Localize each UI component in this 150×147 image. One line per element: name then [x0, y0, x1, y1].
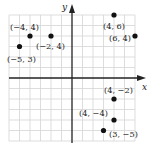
y-axis-label: y [61, 2, 68, 12]
point-4-6 [111, 12, 116, 17]
label-4-neg4: (4, −4) [79, 108, 108, 118]
label-4-neg2: (4, −2) [104, 85, 133, 95]
x-axis-label: x [142, 82, 147, 92]
point-neg2-4 [48, 33, 53, 38]
label-4-6: (4, 6) [103, 21, 125, 31]
point-neg5-3 [17, 44, 22, 49]
coordinate-plane: x y (−4, 4) (−2, 4) (−5, 3) (4, 6) (6, 4… [0, 0, 150, 147]
point-3-neg5 [101, 128, 106, 133]
label-6-4: (6, 4) [109, 33, 131, 43]
label-neg4-4: (−4, 4) [10, 22, 39, 32]
y-axis-arrow-icon [69, 4, 75, 13]
label-neg5-3: (−5, 3) [7, 54, 36, 64]
label-neg2-4: (−2, 4) [36, 41, 65, 51]
point-6-4 [132, 33, 137, 38]
point-neg4-4 [27, 33, 32, 38]
label-3-neg5: (3, −5) [109, 129, 138, 139]
x-axis-arrow-icon [137, 75, 146, 81]
point-4-neg4 [111, 117, 116, 122]
point-4-neg2 [111, 96, 116, 101]
